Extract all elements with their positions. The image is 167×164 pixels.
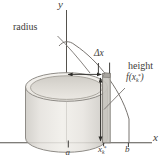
x-axis-label: x <box>153 132 158 144</box>
shell-method-figure: y x radius Δx height f(xk*) a xk* b <box>0 0 167 164</box>
shell-strip <box>103 74 111 143</box>
radius-label: radius <box>13 22 37 33</box>
xk-label: xk* <box>98 145 106 156</box>
height-label: height <box>128 61 153 72</box>
fx-open: f(x <box>126 72 136 82</box>
delta-x-label: Δx <box>94 49 104 59</box>
cylinder <box>26 73 108 153</box>
b-label: b <box>125 145 130 154</box>
radius-leader-line <box>58 36 91 73</box>
a-label: a <box>66 148 71 157</box>
xk-sup: * <box>103 145 106 151</box>
shell-strip-group <box>103 73 111 143</box>
fx-close: ) <box>141 72 144 82</box>
cylinder-top-inner <box>31 76 103 100</box>
y-axis-label: y <box>58 0 63 11</box>
fx-label: f(xk*) <box>126 73 144 83</box>
